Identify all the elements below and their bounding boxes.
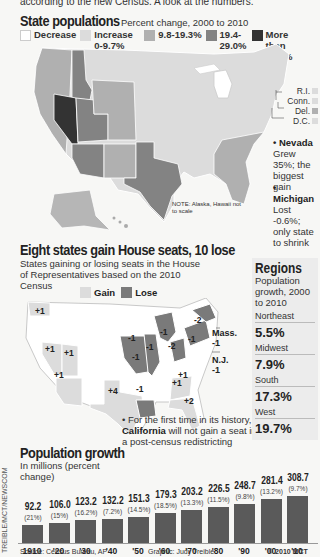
population-bar-chart: 92.2(21%)1910106.0(15%)'20123.2(16.2%)'3… (22, 480, 318, 543)
bar (287, 496, 308, 543)
region-value: 19.7% (255, 419, 315, 438)
swatch (80, 30, 91, 41)
bar-value-label: 92.2 (19, 501, 48, 512)
state-populations-title: State populations (20, 12, 101, 29)
bar-percent-label: (9.7%) (281, 485, 315, 492)
seat-label-mass: Mass.-1 (212, 328, 237, 348)
region-name: West (255, 407, 315, 419)
map-scale-note: NOTE: Alaska, Hawaii not to scale (172, 201, 242, 214)
swatch (144, 30, 155, 41)
bar-value-label: 123.2 (72, 496, 101, 507)
seat-label-nv: +1 (45, 344, 55, 354)
seat-label-mi: -1 (160, 327, 168, 337)
seat-label-ga: +1 (172, 378, 182, 388)
seat-label-il: -1 (146, 342, 154, 352)
swatch (206, 30, 217, 41)
label-ri: R.I. (266, 86, 318, 96)
region-name: Midwest (255, 343, 315, 355)
bar (22, 525, 43, 543)
graphic-credit: Graphic: Judy Treible (148, 548, 214, 555)
seat-label-az: +1 (54, 370, 64, 380)
bar (49, 523, 70, 543)
region-value: 5.5% (255, 323, 315, 342)
x-axis-label: '90 (231, 546, 257, 556)
seat-label-ut: +1 (64, 348, 74, 358)
seat-label-wa: +1 (35, 306, 45, 316)
state-populations-subtitle: Percent change, 2000 to 2010 (121, 17, 248, 28)
legend-gain: Gain (80, 286, 115, 298)
bar (181, 510, 202, 543)
chart-baseline (18, 543, 318, 544)
swatch (20, 30, 31, 41)
bar (261, 499, 282, 543)
seat-label-oh: -2 (168, 341, 176, 351)
bar (155, 513, 176, 543)
regions-panel: Regions Population growth, 2000 to 2010 … (252, 258, 318, 440)
bar (128, 517, 149, 543)
label-conn: Conn. (266, 96, 318, 106)
small-states-labels: R.I. Conn. Del. D.C. (266, 86, 318, 126)
region-value: 7.9% (255, 355, 315, 374)
photo-credit: TREIBLE/MCT/NEWSCOM (1, 467, 8, 553)
michigan-note: • MichiganLost -0.6%; only state to shri… (273, 183, 319, 249)
seat-label-la: -1 (136, 384, 144, 394)
region-name: Northeast (255, 311, 315, 323)
seat-label-nj: N.J.-1 (212, 355, 229, 375)
label-del: Del. (266, 106, 318, 116)
bar-value-label: 132.2 (98, 495, 127, 506)
label-dc: D.C. (266, 116, 318, 126)
intro-text: according to the new Census. A look at t… (20, 0, 253, 7)
seat-label-ny: -2 (194, 315, 202, 325)
state-populations-header: State populations Percent change, 2000 t… (20, 12, 248, 29)
bar (75, 520, 96, 543)
seat-label-fl: +2 (184, 396, 194, 406)
seats-legend: Gain Lose (80, 286, 157, 298)
regions-title: Regions (255, 260, 306, 276)
region-name: South (255, 375, 315, 387)
population-growth-title: Population growth (20, 444, 114, 461)
seat-label-ia: -1 (128, 333, 136, 343)
bar (234, 504, 255, 543)
house-seats-title: Eight states gain House seats, 10 lose (20, 241, 186, 258)
copyright: © 2010 MCT (268, 548, 308, 555)
source-text: Source: Census Bureau, AP (20, 548, 107, 555)
bar (102, 519, 123, 543)
seat-label-pa: -1 (188, 334, 196, 344)
population-change-map (14, 44, 314, 234)
bar-value-label: 106.0 (45, 499, 74, 510)
regions-subtitle: Population growth, 2000 to 2010 (255, 276, 315, 309)
swatch (252, 30, 263, 41)
bar (208, 507, 229, 543)
legend-lose: Lose (121, 286, 157, 298)
region-value: 17.3% (255, 387, 315, 406)
bar-value-label: 308.7 (284, 472, 313, 483)
seat-label-tx: +4 (108, 386, 118, 396)
seat-label-mo: -1 (132, 352, 140, 362)
california-note: • For the first time in its history, Cal… (122, 415, 257, 448)
